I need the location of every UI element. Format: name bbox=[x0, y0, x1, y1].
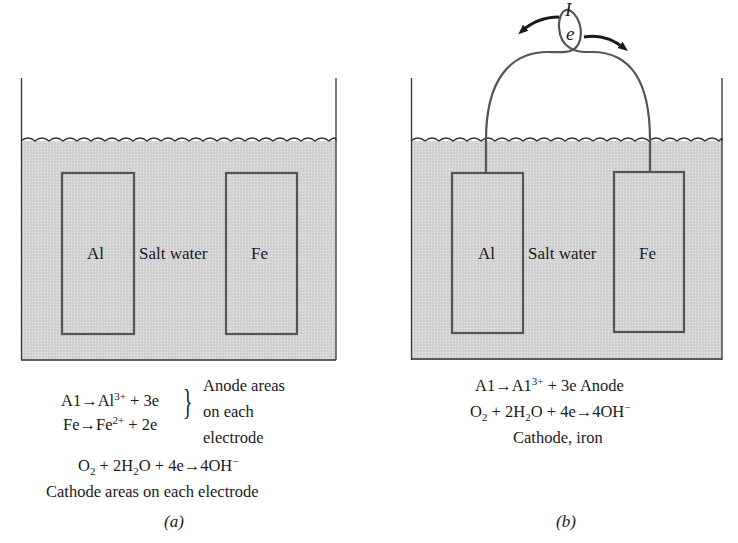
current-label: I bbox=[565, 0, 571, 21]
panel-a-water-surface bbox=[21, 138, 336, 141]
panel-a-cathode-note: Cathode areas on each electrode bbox=[46, 484, 259, 501]
current-arrow-icon bbox=[522, 17, 559, 31]
panel-b-label-salt-water: Salt water bbox=[528, 245, 596, 262]
panel-b-beaker bbox=[411, 10, 722, 360]
panel-b-label-al: Al bbox=[478, 245, 495, 262]
panel-a-anode-note-1: Anode areas bbox=[203, 378, 285, 395]
panel-a-anode-note-2: on each bbox=[203, 404, 254, 421]
panel-b-cathode-reaction: O2 + 2H2O + 4e→4OH− bbox=[470, 404, 631, 421]
panel-b-label-fe: Fe bbox=[639, 245, 656, 262]
panel-b-cathode-note: Cathode, iron bbox=[513, 430, 603, 447]
panel-a-caption: (a) bbox=[164, 512, 184, 532]
panel-a-label-fe: Fe bbox=[251, 245, 268, 262]
panel-a-anode-reaction-fe: Fe→Fe2+ + 2e bbox=[63, 417, 157, 434]
electron-arrow-icon bbox=[584, 36, 624, 48]
panel-a-label-salt-water: Salt water bbox=[139, 245, 207, 262]
electron-label: e bbox=[566, 23, 574, 45]
panel-a-beaker bbox=[21, 78, 336, 360]
panel-a-label-al: Al bbox=[87, 245, 104, 262]
panel-b-anode-reaction: A1→A13+ + 3e Anode bbox=[475, 378, 624, 395]
panel-a-anode-reaction-al: A1→Al3+ + 3e bbox=[61, 393, 159, 410]
panel-b-water-surface bbox=[411, 138, 722, 141]
panel-b-caption: (b) bbox=[556, 512, 576, 532]
panel-a-cathode-reaction: O2 + 2H2O + 4e→4OH− bbox=[78, 458, 239, 475]
brace-icon: } bbox=[183, 384, 193, 420]
panel-a-anode-note-3: electrode bbox=[203, 430, 263, 447]
